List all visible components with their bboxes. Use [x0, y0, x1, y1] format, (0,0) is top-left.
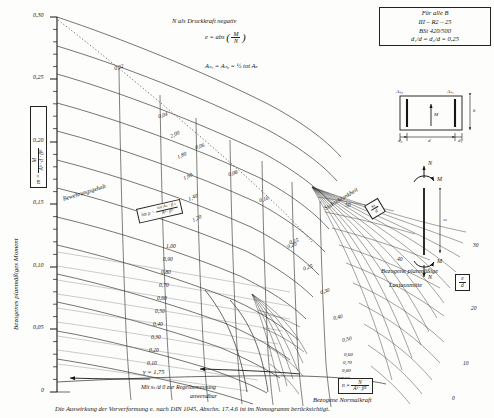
- mu-label-l4: 0,60: [157, 295, 167, 301]
- column-m-bottom: M: [437, 258, 442, 264]
- mu-label-l5: 0,50: [155, 308, 165, 314]
- nomogram-canvas: N als Druckkraft negativ e = abs ( M N )…: [0, 0, 494, 418]
- y-tick-3: 0,15: [33, 199, 44, 205]
- ecc-fan-6: 0,70: [343, 360, 352, 365]
- slender-val-1: 10: [463, 360, 469, 366]
- mu-label-l9: 0,10: [147, 360, 157, 366]
- mu-label-l0: 1,00: [166, 243, 176, 249]
- ecc-legend-line1: Bezogene planmäßige: [381, 267, 438, 274]
- section-dim-b: b: [473, 108, 476, 113]
- y-tick-5: 0,05: [33, 324, 44, 330]
- mu-label-l3: 0,70: [159, 282, 169, 288]
- column-sk: sₖ: [443, 216, 447, 222]
- slender-val-2: 20: [471, 305, 477, 311]
- mu-label-l6: 0,40: [153, 321, 163, 327]
- y-tick-2: 0,20: [33, 137, 44, 143]
- mu-label-l8: 0,20: [149, 347, 159, 353]
- ecc-legend-line2: Lastausmitte: [389, 281, 422, 288]
- material-spec-box: Für alle B III – R2 – 25 BSt 420/500 d₁/…: [379, 7, 491, 46]
- y-axis: [50, 17, 57, 392]
- section-as2: Aₛ₂: [396, 88, 403, 94]
- regel-note-line1: Mit sₖ/d 0 zur Regelbemessung: [141, 383, 216, 390]
- section-dim-d2: d₂: [398, 138, 402, 143]
- cross-section-diagram: [400, 96, 470, 141]
- slender-val-0: 0: [452, 395, 455, 401]
- slenderness-fan-secondary: [252, 294, 307, 394]
- note-druckkraft: N als Druckkraft negativ: [172, 17, 236, 24]
- slender-val-4: 40: [397, 256, 403, 262]
- section-dim-d: d: [428, 138, 431, 143]
- y-tick-0: 0,30: [33, 12, 44, 18]
- section-moment: M: [434, 112, 438, 117]
- reinforcement-curve-family: [57, 17, 341, 404]
- grid-rows: [57, 252, 290, 391]
- x-axis-formula-box: n = N Aᵇ · βᴿ: [338, 378, 373, 394]
- note-steel-split: Aₛ₁ = Aₛ₂ = ½ tot Aₛ: [205, 62, 257, 70]
- column-m-top: M: [437, 176, 442, 182]
- ecc-fan-7: 0,80: [342, 368, 351, 373]
- eccentricity-line-family: [119, 68, 331, 407]
- mu-label-l7: 0,30: [151, 334, 161, 340]
- footer-note: Die Auswirkung der Vorverformung eᵥ nach…: [55, 405, 330, 412]
- gamma-note: γ = 1,75: [143, 368, 165, 375]
- note-eccentricity-formula: e = abs ( M N ): [205, 31, 246, 45]
- y-tick-1: 0,25: [33, 74, 44, 80]
- x-axis-label: Bezogene Normalkraft: [313, 396, 372, 403]
- slender-val-5: 50: [345, 202, 351, 208]
- y-tick-6: 0: [41, 387, 44, 393]
- dotted-limit-curve: [58, 20, 312, 242]
- y-axis-formula-box: m = M Aᵇ · d · βᴿ: [30, 106, 47, 188]
- mu-label-l2: 0,80: [161, 269, 171, 275]
- section-dim-d1: d₁: [458, 138, 462, 143]
- regel-note-line2: anwendbar: [190, 393, 217, 399]
- slender-val-3: 30: [473, 242, 479, 248]
- ecc-fan-5: 0,60: [344, 352, 353, 357]
- y-axis-label: Bezogenes planmäßiges Moment: [12, 238, 20, 330]
- column-n-bottom: N: [428, 274, 432, 280]
- mu-label-l1: 0,90: [163, 256, 173, 262]
- ecc-legend-formula-box: e d: [455, 274, 470, 291]
- y-tick-4: 0,10: [33, 262, 44, 268]
- section-as1: Aₛ₁: [447, 88, 454, 94]
- column-n-top: N: [428, 160, 432, 166]
